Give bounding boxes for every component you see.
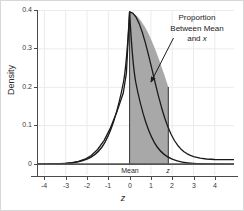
x-axis-line: [31, 176, 238, 177]
callout-line-1: Proportion: [151, 13, 243, 24]
x-tick-label-4: 4: [203, 182, 227, 189]
y-tick-label-0.1: 0.1: [22, 121, 32, 129]
y-tick-mark-0.2: [34, 87, 37, 88]
x-tick-mark--3: [66, 177, 67, 180]
x-tick-mark-1: [151, 177, 152, 180]
x-tick-mark-2: [172, 177, 173, 180]
x-tick-label--1: -1: [96, 182, 120, 189]
y-axis-line: [37, 10, 38, 176]
callout-arrow: [151, 38, 174, 82]
normal-distribution-chart: Proportion Between Mean and x 0.4 0.3 0.…: [0, 0, 244, 211]
y-tick-mark-0: [34, 164, 37, 165]
mean-baseline-label: Mean: [110, 167, 150, 174]
y-tick-label-0.4: 0.4: [22, 6, 32, 14]
x-tick-mark--2: [87, 177, 88, 180]
x-tick-mark--4: [44, 177, 45, 180]
x-tick-label-2: 2: [160, 182, 184, 189]
x-tick-mark-4: [215, 177, 216, 180]
x-tick-mark--1: [108, 177, 109, 180]
y-tick-label-0.3: 0.3: [22, 44, 32, 52]
y-tick-label-0.2: 0.2: [22, 83, 32, 91]
callout-line-2: Between Mean: [151, 24, 243, 35]
proportion-callout-text: Proportion Between Mean and x: [151, 13, 243, 45]
z-baseline-label: z: [148, 167, 188, 174]
x-tick-mark-3: [194, 177, 195, 180]
y-tick-label-0: 0: [28, 160, 32, 168]
x-tick-label--4: -4: [32, 182, 56, 189]
callout-line-3: and x: [151, 34, 243, 45]
y-tick-mark-0.3: [34, 48, 37, 49]
x-tick-mark-0: [130, 177, 131, 180]
y-tick-mark-0.1: [34, 125, 37, 126]
y-tick-mark-0.4: [34, 10, 37, 11]
callout-line-3-variable: x: [203, 34, 207, 43]
callout-line-3-prefix: and: [187, 34, 203, 43]
y-axis-title: Density: [6, 50, 16, 110]
x-axis-title: z: [1, 193, 244, 203]
